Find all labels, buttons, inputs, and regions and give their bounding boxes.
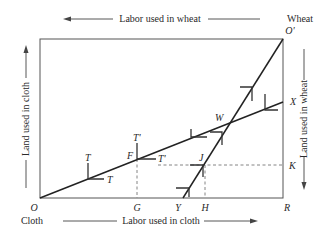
wheat-expansion-path-line	[183, 39, 283, 198]
point-X-label: X	[289, 96, 297, 107]
edgeworth-box-diagram: Labor used in wheat Labor used in cloth …	[0, 0, 325, 239]
wheat-good-label: Wheat	[287, 13, 313, 24]
point-T-upper-label: T	[85, 152, 92, 163]
point-R-label: R	[283, 202, 290, 213]
bottom-axis-label: Labor used in cloth	[122, 215, 199, 226]
origin-O-label: O	[30, 202, 37, 213]
point-W-label: W	[215, 112, 225, 123]
point-F-label: F	[126, 150, 134, 161]
point-G-label: G	[133, 202, 140, 213]
cloth-good-label: Cloth	[21, 215, 43, 226]
point-T-right-label: T	[107, 174, 114, 185]
right-axis-label: Land used in wheat	[298, 80, 309, 158]
point-T-prime-upper-label: T'	[133, 132, 142, 143]
origin-O-prime-label: O'	[285, 25, 295, 36]
point-T-prime-right-label: T'	[158, 153, 167, 164]
point-J-label: J	[199, 152, 204, 163]
edgeworth-box-frame	[40, 39, 283, 198]
point-Y-label: Y	[175, 202, 182, 213]
cloth-expansion-path-line	[40, 102, 283, 198]
top-axis-label: Labor used in wheat	[119, 13, 201, 24]
left-axis-label: Land used in cloth	[20, 82, 31, 156]
point-K-label: K	[288, 160, 297, 171]
point-H-label: H	[200, 202, 209, 213]
